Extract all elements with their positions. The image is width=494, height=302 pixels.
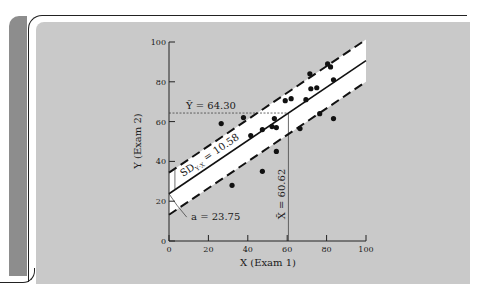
data-point [260, 169, 265, 174]
y-axis-label: Y (Exam 2) [132, 113, 143, 170]
data-point [269, 124, 274, 129]
data-point [317, 111, 322, 116]
x-tick-label: 100 [358, 245, 373, 254]
x-mean-label: X̄ = 60.62 [276, 169, 287, 219]
data-point [289, 96, 294, 101]
data-point [303, 97, 308, 102]
x-tick-label: 60 [282, 245, 292, 254]
data-point [248, 133, 253, 138]
y-tick-label: 0 [161, 237, 166, 246]
data-point [229, 183, 234, 188]
data-point [328, 64, 333, 69]
data-point [314, 85, 319, 90]
data-point [331, 116, 336, 121]
y-tick-label: 20 [156, 197, 166, 206]
x-tick-label: 40 [243, 245, 253, 254]
y-tick-label: 40 [156, 157, 166, 166]
data-point [260, 127, 265, 132]
data-point [307, 71, 312, 76]
data-point [241, 115, 246, 120]
x-tick-label: 0 [166, 245, 171, 254]
data-point [297, 126, 302, 131]
data-point [308, 86, 313, 91]
x-axis-label: X (Exam 1) [240, 257, 296, 268]
y-tick-label: 80 [156, 78, 166, 87]
regression-line [169, 61, 366, 194]
data-point [331, 77, 336, 82]
y-mean-label: Ȳ = 64.30 [185, 100, 236, 111]
data-point [274, 149, 279, 154]
data-point [283, 98, 288, 103]
x-tick-label: 80 [322, 245, 332, 254]
scatter-chart: 020406080100020406080100 X (Exam 1) Y (E… [0, 0, 494, 302]
data-point [219, 121, 224, 126]
intercept-label: a = 23.75 [191, 211, 240, 222]
data-point [274, 125, 279, 130]
y-tick-label: 100 [151, 38, 166, 47]
y-tick-label: 60 [156, 118, 166, 127]
data-point [272, 116, 277, 121]
x-tick-label: 20 [203, 245, 213, 254]
